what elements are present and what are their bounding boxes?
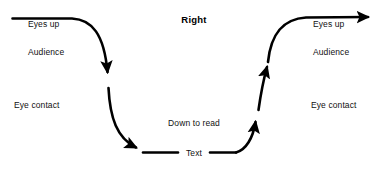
label-right-eye-contact: Eye contact <box>311 100 357 110</box>
left-gaze-path-upper <box>13 19 108 73</box>
left-gaze-path-lower <box>109 88 137 148</box>
label-right-audience: Audience <box>313 47 349 57</box>
right-gaze-path-mid <box>259 67 268 110</box>
label-left-audience: Audience <box>28 47 64 57</box>
right-gaze-path-lower <box>236 122 256 153</box>
label-right-eyes-up: Eyes up <box>313 19 344 29</box>
label-down-to-read: Down to read <box>168 118 220 128</box>
label-text: Text <box>182 148 206 158</box>
diagram-canvas: Right Eyes up Audience Eye contact Eyes … <box>0 0 389 171</box>
label-left-eyes-up: Eyes up <box>28 19 59 29</box>
page-title: Right <box>181 14 206 25</box>
label-left-eye-contact: Eye contact <box>14 100 60 110</box>
